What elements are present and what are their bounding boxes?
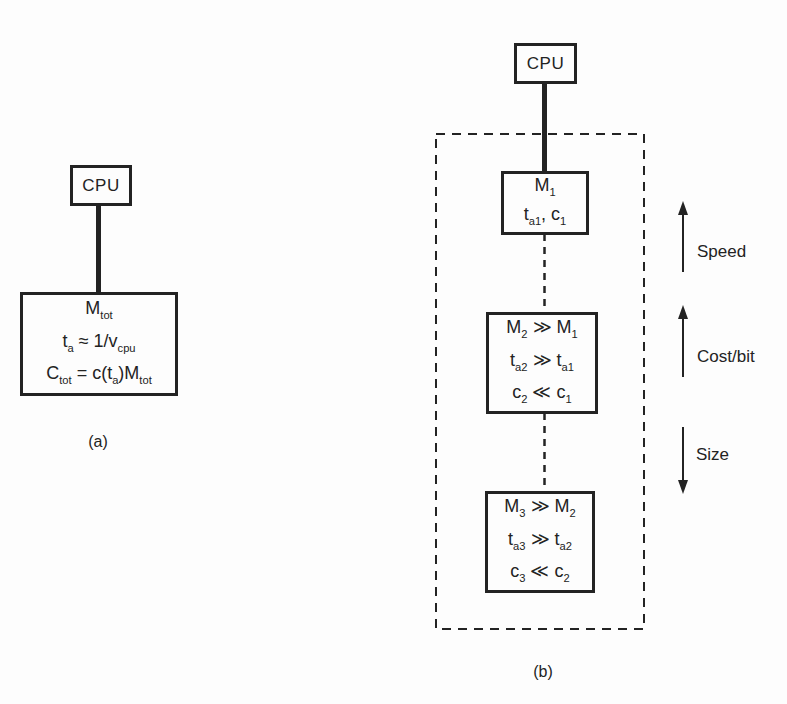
formula-line-access-time: ta ≈ 1/vcpu bbox=[62, 328, 135, 361]
caption-a: (a) bbox=[66, 433, 130, 451]
formula-line-m2-size: M2 ≫ M1 bbox=[506, 314, 577, 347]
speed-label: Speed bbox=[697, 242, 746, 262]
cpu-label-b: CPU bbox=[527, 54, 564, 74]
formula-line-m3-time: ta3 ≫ ta2 bbox=[508, 526, 572, 559]
cost-per-bit-up-arrow-icon bbox=[678, 305, 688, 377]
size-down-arrow-icon bbox=[678, 427, 688, 494]
formula-line-m2-cost: c2 ≪ c1 bbox=[512, 379, 571, 412]
formula-line-m3-cost: c3 ≪ c2 bbox=[510, 558, 569, 591]
memory-level-2-box: M2 ≫ M1 ta2 ≫ ta1 c2 ≪ c1 bbox=[486, 312, 598, 414]
formula-line-cost: Ctot = c(ta)Mtot bbox=[46, 360, 152, 393]
cost-per-bit-label: Cost/bit bbox=[697, 347, 755, 367]
memory-box-total: Mtot ta ≈ 1/vcpu Ctot = c(ta)Mtot bbox=[20, 292, 178, 396]
cpu-label-a: CPU bbox=[82, 176, 119, 196]
memory-level-3-box: M3 ≫ M2 ta3 ≫ ta2 c3 ≪ c2 bbox=[485, 491, 595, 593]
cpu-box-b: CPU bbox=[514, 43, 577, 84]
formula-line-m1: M1 bbox=[534, 174, 555, 203]
formula-line-m1-params: ta1, c1 bbox=[524, 203, 567, 232]
formula-line-m3-size: M3 ≫ M2 bbox=[504, 493, 575, 526]
cpu-box-a: CPU bbox=[70, 165, 132, 206]
formula-line-mtot: Mtot bbox=[85, 295, 112, 328]
speed-up-arrow-icon bbox=[678, 201, 688, 272]
memory-level-1-box: M1 ta1, c1 bbox=[501, 171, 589, 235]
size-label: Size bbox=[696, 445, 729, 465]
figure-canvas: CPU Mtot ta ≈ 1/vcpu Ctot = c(ta)Mtot (a… bbox=[0, 0, 787, 704]
formula-line-m2-time: ta2 ≫ ta1 bbox=[510, 347, 574, 380]
caption-b: (b) bbox=[511, 663, 575, 681]
